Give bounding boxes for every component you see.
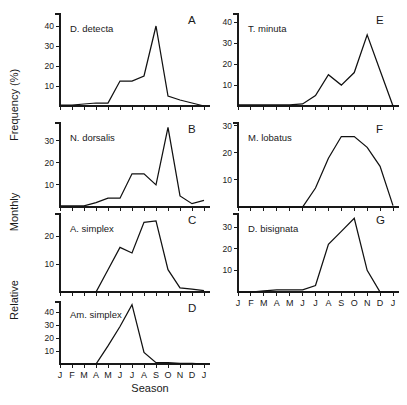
panel-d: 10203040JFMAMJJASONDJAm. simplexD [45, 302, 210, 380]
y-tick-label: 20 [223, 148, 233, 158]
x-tick-label-month: N [177, 370, 184, 380]
y-axis-title-word-relative: Relative [8, 280, 20, 320]
y-tick-label: 40 [45, 307, 55, 317]
data-series-line [60, 26, 204, 106]
panel-species-label: T. minuta [248, 23, 287, 34]
x-tick-label-month: D [189, 370, 196, 380]
y-axis-title: Frequency (%) Monthly Relative [8, 69, 20, 320]
x-axis-title-left: Season [131, 382, 168, 394]
y-axis-title-word-monthly: Monthly [8, 192, 20, 231]
y-tick-label: 20 [223, 59, 233, 69]
panel-c: 1020A. simplexC [45, 214, 210, 296]
x-tick-label-month: J [58, 370, 63, 380]
y-tick-label: 30 [45, 41, 55, 51]
y-tick-label: 30 [223, 121, 233, 131]
y-tick-label: 10 [223, 80, 233, 90]
x-tick-label-month: M [80, 370, 88, 380]
x-tick-label-month: S [338, 298, 344, 308]
panel-f: 102030M. lobatusF [223, 121, 399, 211]
panel-letter-label: D [188, 302, 196, 314]
y-tick-label: 30 [223, 222, 233, 232]
panel-letter-label: F [376, 123, 383, 135]
x-tick-label-month: N [364, 298, 371, 308]
x-tick-label-month: D [377, 298, 384, 308]
y-tick-label: 10 [223, 175, 233, 185]
panel-a: 10203040D. detectaA [45, 14, 210, 110]
panel-species-label: D. detecta [70, 23, 114, 34]
x-tick-label-month: M [286, 298, 294, 308]
x-tick-label-month: J [313, 298, 318, 308]
y-tick-label: 10 [45, 259, 55, 269]
y-tick-label: 10 [223, 265, 233, 275]
y-tick-label: 20 [223, 244, 233, 254]
panel-g: 102030JFMAMJJASONDJD. bisignataG [223, 214, 399, 308]
y-tick-label: 40 [45, 21, 55, 31]
x-tick-label-month: F [248, 298, 254, 308]
x-tick-label-month: O [351, 298, 358, 308]
panel-species-label: A. simplex [70, 223, 114, 234]
data-series-line [238, 35, 393, 106]
x-tick-label-month: J [236, 298, 241, 308]
panel-species-label: N. dorsalis [70, 132, 115, 143]
y-tick-label: 10 [45, 81, 55, 91]
y-tick-label: 20 [45, 61, 55, 71]
panel-letter-label: B [188, 123, 196, 135]
x-tick-label-month: A [141, 370, 147, 380]
x-tick-label-month: A [274, 298, 280, 308]
panel-letter-label: G [376, 214, 385, 226]
y-tick-label: 30 [45, 320, 55, 330]
panel-species-label: M. lobatus [248, 132, 292, 143]
panel-letter-label: E [376, 14, 384, 26]
x-tick-label-month: J [118, 370, 123, 380]
y-tick-label: 30 [223, 38, 233, 48]
x-tick-label-month: S [153, 370, 159, 380]
panel-species-label: D. bisignata [248, 223, 299, 234]
x-tick-label-month: M [104, 370, 112, 380]
y-tick-label: 20 [45, 231, 55, 241]
x-tick-label-month: J [391, 298, 396, 308]
x-tick-label-month: O [164, 370, 171, 380]
panels-group: 10203040D. detectaA102030N. dorsalisB102… [45, 14, 399, 380]
y-tick-label: 40 [223, 17, 233, 27]
panel-species-label: Am. simplex [70, 309, 122, 320]
panel-e: 10203040T. minutaE [223, 14, 399, 110]
x-tick-label-month: J [202, 370, 207, 380]
y-axis-title-word-frequency: Frequency (%) [8, 69, 20, 141]
x-tick-label-month: M [260, 298, 268, 308]
y-tick-label: 30 [45, 136, 55, 146]
panel-letter-label: C [188, 214, 196, 226]
figure-container: Frequency (%) Monthly Relative 10203040D… [0, 0, 407, 405]
panel-letter-label: A [188, 14, 196, 26]
data-series-line [238, 137, 393, 207]
y-tick-label: 20 [45, 158, 55, 168]
y-tick-label: 10 [45, 346, 55, 356]
multi-panel-line-chart: Frequency (%) Monthly Relative 10203040D… [0, 0, 407, 405]
x-tick-label-month: A [93, 370, 99, 380]
x-tick-label-month: J [300, 298, 305, 308]
x-tick-label-month: A [325, 298, 331, 308]
panel-b: 102030N. dorsalisB [45, 123, 210, 211]
x-tick-label-month: J [130, 370, 135, 380]
x-tick-label-month: F [69, 370, 75, 380]
y-tick-label: 20 [45, 333, 55, 343]
y-tick-label: 10 [45, 180, 55, 190]
